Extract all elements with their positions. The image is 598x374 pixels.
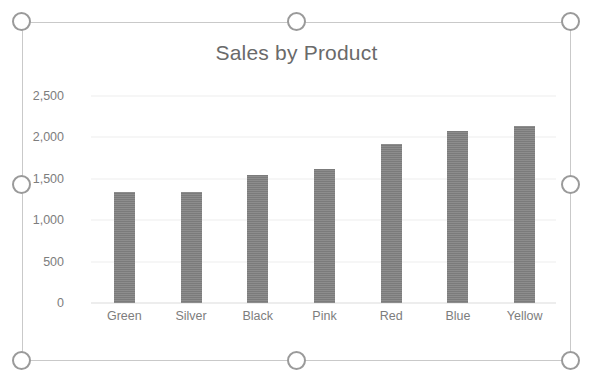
bar-blue[interactable] bbox=[447, 131, 468, 303]
bar-silver[interactable] bbox=[181, 192, 202, 303]
plot-area[interactable]: 05001,0001,5002,0002,500 GreenSilverBlac… bbox=[23, 23, 570, 360]
chart-object[interactable]: Sales by Product 05001,0001,5002,0002,50… bbox=[22, 22, 571, 361]
resize-handle-bottom-center[interactable] bbox=[287, 351, 306, 370]
y-axis-tick-label: 500 bbox=[4, 255, 64, 269]
resize-handle-middle-left[interactable] bbox=[12, 175, 31, 194]
y-axis-tick-label: 1,000 bbox=[4, 213, 64, 227]
bar-black[interactable] bbox=[247, 175, 268, 303]
resize-handle-bottom-left[interactable] bbox=[12, 351, 31, 370]
resize-handle-bottom-right[interactable] bbox=[561, 351, 580, 370]
x-axis-tick-label-yellow: Yellow bbox=[485, 309, 565, 323]
resize-handle-top-center[interactable] bbox=[287, 12, 306, 31]
resize-handle-top-left[interactable] bbox=[12, 12, 31, 31]
bar-pink[interactable] bbox=[314, 169, 335, 303]
y-axis-tick-label: 2,000 bbox=[4, 130, 64, 144]
y-axis-tick-label: 0 bbox=[4, 296, 64, 310]
bar-yellow[interactable] bbox=[514, 126, 535, 303]
resize-handle-top-right[interactable] bbox=[561, 12, 580, 31]
bar-red[interactable] bbox=[381, 144, 402, 303]
bar-green[interactable] bbox=[114, 192, 135, 303]
resize-handle-middle-right[interactable] bbox=[561, 175, 580, 194]
y-axis-tick-label: 2,500 bbox=[4, 89, 64, 103]
